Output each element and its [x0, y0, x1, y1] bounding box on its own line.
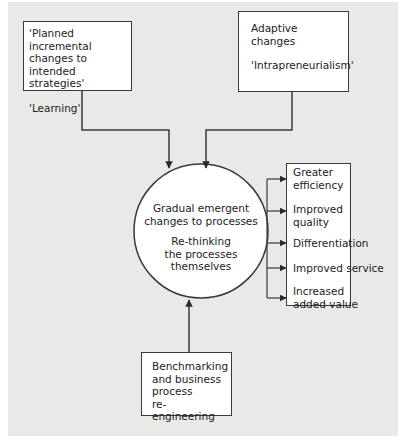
adaptive-changes-box: Adaptive changes 'Intrapreneurialism': [238, 11, 349, 92]
box-text: Benchmarking: [152, 360, 227, 373]
outcome-text: Differentiation: [293, 237, 368, 250]
circle-text-line: the processes: [134, 248, 268, 261]
box-text: process: [152, 385, 227, 398]
box-text: strategies': [29, 77, 127, 90]
box-text: re-engineering: [152, 398, 227, 423]
outcome-text: quality: [293, 216, 343, 229]
outcome-improved-quality: Improved quality: [293, 203, 343, 228]
outcome-text: efficiency: [293, 179, 343, 192]
box-text: 'Learning': [29, 102, 127, 115]
box-text: 'Intrapreneurialism': [251, 59, 344, 72]
benchmarking-box: Benchmarking and business process re-eng…: [141, 352, 232, 416]
circle-text-line: changes to processes: [134, 215, 268, 228]
box-text: changes to intended: [29, 52, 127, 77]
circle-text-line: Re-thinking: [134, 235, 268, 248]
box-text: and business: [152, 373, 227, 386]
outcome-text: Improved service: [293, 262, 384, 275]
outcome-text: Increased: [293, 285, 358, 298]
outcome-text: added value: [293, 298, 358, 311]
outcome-text: Greater: [293, 166, 343, 179]
circle-text-line: Gradual emergent: [134, 202, 268, 215]
outcome-increased-added-value: Increased added value: [293, 285, 358, 310]
outcome-improved-service: Improved service: [293, 262, 384, 275]
box-text: 'Planned incremental: [29, 27, 127, 52]
arrow-adaptive-to-circle: [206, 91, 292, 168]
outcome-differentiation: Differentiation: [293, 237, 368, 250]
box-text: Adaptive: [251, 22, 344, 35]
outcome-greater-efficiency: Greater efficiency: [293, 166, 343, 191]
box-text: changes: [251, 35, 344, 48]
planned-incremental-changes-box: 'Planned incremental changes to intended…: [23, 21, 132, 91]
outcome-text: Improved: [293, 203, 343, 216]
center-circle-text: Gradual emergent changes to processes Re…: [134, 202, 268, 273]
circle-text-line: themselves: [134, 260, 268, 273]
